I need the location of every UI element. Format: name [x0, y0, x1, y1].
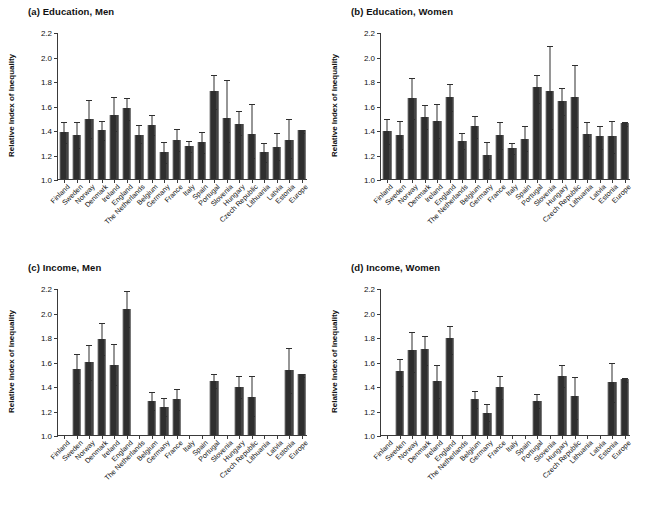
error-bar — [424, 336, 425, 365]
error-bar-cap-upper — [86, 100, 92, 101]
error-bar-cap-upper — [74, 354, 80, 355]
error-bar-cap-lower — [497, 399, 503, 400]
error-bar-cap-lower — [199, 153, 205, 154]
error-bar-cap-lower — [111, 131, 117, 132]
y-axis-tick — [377, 107, 381, 108]
error-bar-cap-upper — [497, 122, 503, 123]
y-axis-tick-label: 1.4 — [41, 127, 52, 136]
panel-title: (c) Income, Men — [28, 262, 101, 273]
plot-area: 1.01.21.41.61.82.02.2 — [380, 33, 630, 180]
y-axis-tick-label: 1.8 — [41, 78, 52, 87]
error-bar-cap-upper — [534, 394, 540, 395]
error-bar — [76, 354, 77, 383]
y-axis-tick — [54, 33, 58, 34]
error-bar-cap-upper — [409, 78, 415, 79]
error-bar-cap-lower — [447, 111, 453, 112]
error-bar-cap-upper — [61, 122, 67, 123]
error-bar — [449, 326, 450, 354]
error-bar-cap-lower — [609, 153, 615, 154]
error-bar-cap-upper — [299, 374, 305, 375]
error-bar-cap-upper — [609, 363, 615, 364]
error-bar-cap-lower — [497, 149, 503, 150]
y-axis-tick-label: 2.0 — [364, 53, 375, 62]
error-bar — [176, 389, 177, 410]
error-bar — [574, 377, 575, 419]
error-bar — [399, 359, 400, 386]
error-bar — [276, 133, 277, 160]
error-bar-cap-upper — [509, 143, 515, 144]
error-bar — [101, 323, 102, 355]
error-bar-cap-lower — [161, 163, 167, 164]
error-bar-cap-upper — [124, 98, 130, 99]
plot-area: 1.01.21.41.61.82.02.2 — [57, 289, 307, 436]
error-bar-cap-upper — [174, 389, 180, 390]
error-bar-cap-upper — [622, 122, 628, 123]
y-axis-tick-label: 1.8 — [364, 334, 375, 343]
error-bar-cap-lower — [484, 421, 490, 422]
error-bar-cap-upper — [622, 378, 628, 379]
y-axis-tick — [377, 131, 381, 132]
figure-relative-index-of-inequality: (a) Education, Men Relative Index of Ine… — [0, 0, 645, 511]
error-bar — [139, 125, 140, 143]
error-bar-cap-upper — [434, 104, 440, 105]
error-bar-cap-upper — [186, 141, 192, 142]
error-bar — [214, 75, 215, 109]
error-bar-cap-lower — [534, 103, 540, 104]
error-bar-cap-lower — [236, 135, 242, 136]
error-bar — [587, 122, 588, 145]
error-bar-cap-upper — [211, 374, 217, 375]
error-bar-cap-lower — [236, 398, 242, 399]
bar — [297, 130, 306, 179]
error-bar-cap-upper — [74, 122, 80, 123]
error-bar-cap-lower — [286, 393, 292, 394]
error-bar-cap-lower — [409, 372, 415, 373]
error-bar-cap-upper — [286, 119, 292, 120]
error-bar-cap-upper — [434, 365, 440, 366]
error-bar-cap-lower — [534, 408, 540, 409]
error-bar-cap-lower — [584, 146, 590, 147]
error-bar-cap-lower — [384, 144, 390, 145]
error-bar-cap-upper — [161, 398, 167, 399]
error-bar — [251, 376, 252, 416]
plot-area: 1.01.21.41.61.82.02.2 — [57, 33, 307, 180]
error-bar-cap-upper — [236, 376, 242, 377]
y-axis-tick-label: 1.8 — [41, 334, 52, 343]
y-axis-label: Relative Index of Inequality — [4, 286, 20, 436]
error-bar-cap-lower — [224, 142, 230, 143]
y-axis-tick-label: 1.8 — [364, 78, 375, 87]
error-bar-cap-lower — [434, 138, 440, 139]
error-bar-cap-upper — [274, 133, 280, 134]
error-bar — [437, 104, 438, 138]
error-bar-cap-lower — [472, 408, 478, 409]
error-bar-cap-upper — [572, 377, 578, 378]
error-bar-cap-upper — [249, 376, 255, 377]
y-axis-tick-label: 1.4 — [364, 127, 375, 136]
error-bar-cap-lower — [149, 410, 155, 411]
error-bar-cap-upper — [559, 365, 565, 366]
error-bar-cap-upper — [409, 332, 415, 333]
error-bar — [189, 141, 190, 152]
error-bar-cap-lower — [61, 143, 67, 144]
error-bar-cap-lower — [572, 127, 578, 128]
error-bar — [474, 391, 475, 408]
error-bar — [114, 344, 115, 384]
y-axis-label: Relative Index of Inequality — [327, 30, 343, 180]
error-bar — [537, 394, 538, 407]
error-bar-cap-upper — [124, 291, 130, 292]
error-bar-cap-lower — [459, 149, 465, 150]
error-bar-cap-upper — [422, 105, 428, 106]
y-axis-tick-label: 1.4 — [364, 383, 375, 392]
error-bar-cap-lower — [472, 138, 478, 139]
y-axis-tick-label: 2.2 — [364, 285, 375, 294]
panel-title: (b) Education, Women — [351, 6, 453, 17]
y-axis-tick-label: 2.0 — [41, 309, 52, 318]
error-bar-cap-lower — [86, 138, 92, 139]
error-bar-cap-upper — [447, 84, 453, 85]
error-bar-cap-upper — [459, 133, 465, 134]
y-axis-tick — [54, 314, 58, 315]
y-axis-tick — [377, 289, 381, 290]
error-bar — [164, 142, 165, 163]
y-axis-label: Relative Index of Inequality — [327, 286, 343, 436]
error-bar-cap-lower — [484, 169, 490, 170]
error-bar-cap-lower — [161, 416, 167, 417]
